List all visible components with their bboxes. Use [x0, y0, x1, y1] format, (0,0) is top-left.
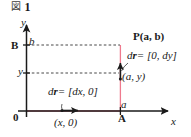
dr-label-horizontal: dr= [dx, 0]	[48, 86, 98, 97]
tick-label-b: b	[29, 36, 35, 47]
dr-vector-horizontal-base	[61, 109, 64, 112]
figure-container: 図1	[0, 0, 191, 137]
point-label-a-y: (a, y)	[122, 71, 145, 82]
point-label-P: P(a, b)	[133, 31, 164, 42]
tick-label-B: B	[11, 40, 18, 51]
tick-label-y: y	[18, 66, 23, 77]
tick-label-A: A	[118, 113, 126, 124]
dr-label-horizontal-eq: = [dx, 0]	[58, 85, 98, 97]
tick-marks	[23, 45, 120, 115]
dashed-guides	[27, 45, 120, 73]
coordinate-plot	[0, 0, 191, 137]
origin-label: 0	[13, 112, 19, 123]
y-axis-label: y	[21, 17, 26, 28]
path-segments	[26, 45, 121, 111]
leader-dr-horizontal	[62, 104, 63, 109]
dr-label-vertical-eq: = [0, dy]	[137, 49, 177, 61]
dr-label-vertical: dr= [0, dy]	[127, 50, 177, 61]
point-label-P-text: P(a, b)	[133, 30, 164, 42]
point-label-x-0: (x, 0)	[54, 117, 77, 128]
tick-label-a: a	[121, 99, 127, 110]
x-axis-label: x	[171, 116, 176, 127]
